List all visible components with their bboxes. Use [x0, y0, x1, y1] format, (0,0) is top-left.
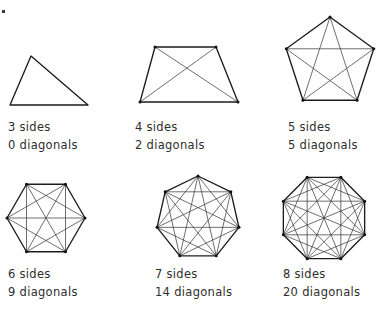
diagonal-line — [283, 201, 340, 258]
vertex-dot — [306, 176, 309, 179]
sides-count-label: 8 sides — [283, 265, 360, 283]
diagonal-line — [307, 177, 364, 234]
vertex-dot — [306, 257, 309, 260]
vertex-dot — [282, 233, 285, 236]
vertex-dot — [339, 176, 342, 179]
vertex-dot — [363, 200, 366, 203]
vertex-dot — [363, 233, 366, 236]
diagonal-line — [283, 177, 340, 234]
diagonal-line — [307, 201, 364, 258]
caption-octagon: 8 sides20 diagonals — [283, 265, 360, 301]
diagonals-count-label: 20 diagonals — [283, 283, 360, 301]
polygon-panel-octagon: 8 sides20 diagonals — [0, 0, 382, 321]
figure-canvas: 3 sides0 diagonals4 sides2 diagonals5 si… — [0, 0, 382, 321]
vertex-dot — [282, 200, 285, 203]
vertex-dot — [339, 257, 342, 260]
